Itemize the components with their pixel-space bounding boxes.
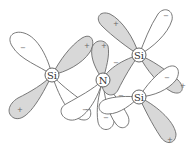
sign-n-lower-left: − bbox=[85, 106, 91, 114]
atom-si-left: Si bbox=[45, 68, 59, 82]
lobe-si-left-lower-left bbox=[9, 75, 52, 119]
atom-n: N bbox=[96, 73, 110, 87]
sign-si-bottom-right-upper-right: − bbox=[164, 74, 170, 82]
lobe-si-left-upper-left bbox=[10, 32, 52, 75]
atom-label: Si bbox=[134, 92, 144, 103]
atom-si-top-right: Si bbox=[132, 48, 146, 62]
sign-si-bottom-right-down: + bbox=[167, 136, 173, 144]
sign-si-left-upper-right: + bbox=[84, 42, 90, 50]
sign-si-top-right-up: − bbox=[163, 12, 169, 20]
sign-n-bond-lobe: + bbox=[113, 20, 119, 28]
atom-label: Si bbox=[134, 50, 144, 61]
sign-n-lower-down: − bbox=[103, 114, 109, 122]
sign-si-top-right-lower-left: − bbox=[113, 59, 119, 67]
atom-si-bottom-right: Si bbox=[132, 90, 146, 104]
sign-si-bottom-right-left: − bbox=[118, 92, 124, 100]
atom-label: Si bbox=[47, 70, 57, 81]
sign-si-top-right-right: + bbox=[180, 82, 186, 90]
orbital-diagram: − + + − + + − − − − − + − + Si N Si Si bbox=[0, 0, 189, 156]
atom-label: N bbox=[99, 75, 108, 86]
sign-si-left-upper-left: − bbox=[20, 44, 26, 52]
sign-si-left-lower-left: + bbox=[17, 106, 23, 114]
sign-n-upper-left: + bbox=[101, 42, 107, 50]
